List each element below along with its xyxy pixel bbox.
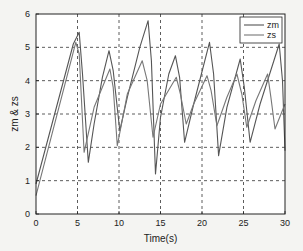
x-tick-label: 25 <box>238 218 248 228</box>
x-tick-label: 5 <box>75 218 80 228</box>
y-tick-label: 6 <box>25 9 30 19</box>
x-tick-label: 20 <box>197 218 207 228</box>
x-tick-label: 30 <box>280 218 290 228</box>
line-chart: 0510152025300123456Time(s)zm & zszmzs <box>0 0 303 251</box>
legend-label-zm: zm <box>267 20 279 30</box>
y-tick-label: 0 <box>25 209 30 219</box>
x-tick-label: 10 <box>114 218 124 228</box>
x-axis-label: Time(s) <box>144 233 178 244</box>
y-tick-label: 3 <box>25 109 30 119</box>
x-tick-label: 15 <box>155 218 165 228</box>
x-tick-label: 0 <box>33 218 38 228</box>
y-axis-label: zm & zs <box>9 96 20 132</box>
legend-label-zs: zs <box>267 30 277 40</box>
y-tick-label: 2 <box>25 142 30 152</box>
y-tick-label: 4 <box>25 76 30 86</box>
y-tick-label: 1 <box>25 176 30 186</box>
y-tick-label: 5 <box>25 42 30 52</box>
